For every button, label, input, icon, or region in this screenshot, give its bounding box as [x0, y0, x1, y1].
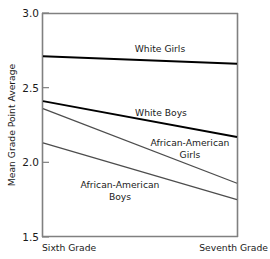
y-tick-label-1-5: 1.5 [22, 231, 39, 243]
series-label-white-boys: White Boys [135, 107, 187, 118]
series-label-african-american-girls-line1: African-American [151, 137, 230, 148]
x-category-label-sixth-grade: Sixth Grade [42, 242, 97, 253]
y-axis-title: Mean Grade Point Average [6, 63, 17, 186]
line-chart-canvas: 3.0 2.5 2.0 1.5 Mean Grade Point Average… [0, 0, 270, 259]
y-tick-label-3-0: 3.0 [22, 7, 39, 19]
series-label-african-american-boys-line1: African-American [81, 179, 160, 190]
x-category-label-seventh-grade: Seventh Grade [199, 242, 268, 253]
series-label-african-american-boys-line2: Boys [109, 191, 131, 202]
y-tick-label-2-0: 2.0 [22, 156, 39, 168]
chart-figure: 3.0 2.5 2.0 1.5 Mean Grade Point Average… [0, 0, 270, 259]
y-tick-labels: 3.0 2.5 2.0 1.5 [22, 7, 39, 243]
series-line-white-girls [43, 56, 237, 63]
series-label-white-girls: White Girls [135, 43, 186, 54]
series-line-african-american-boys [43, 143, 237, 200]
y-tick-label-2-5: 2.5 [22, 82, 39, 94]
series-label-african-american-girls-line2: Girls [180, 149, 201, 160]
